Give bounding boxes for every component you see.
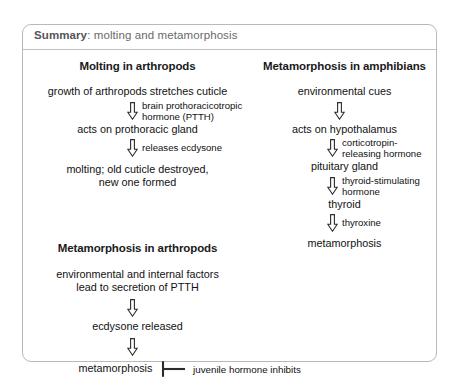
panel-body: Molting in arthropods growth of arthropo… [23, 50, 436, 361]
arrow-row-thyroxine: thyroxine [252, 212, 437, 234]
node-ecdysone-released: ecdysone released [23, 320, 252, 333]
arrow-row-ma-1 [23, 297, 252, 319]
arrow-label-tsh-line1: thyroid-stimulating [342, 175, 420, 186]
arrow-row-amph-1 [252, 100, 437, 122]
node-acts-on-prothoracic-gland: acts on prothoracic gland [23, 123, 252, 136]
node-environmental-cues: environmental cues [252, 85, 437, 98]
node-molting-line2: new one formed [23, 176, 252, 189]
section-metamorphosis-amphibians: Metamorphosis in amphibians environmenta… [252, 60, 437, 250]
down-arrow-icon [127, 102, 138, 120]
node-metamorphosis-amphibians: metamorphosis [252, 237, 437, 250]
node-env-factors-line1: environmental and internal factors [23, 268, 252, 281]
arrow-label-crh: corticotropin- releasing hormone [342, 137, 421, 159]
down-arrow-icon [327, 139, 338, 157]
arrow-label-ptth-line1: brain prothoracicotropic [142, 100, 242, 111]
panel-header: Summary: molting and metamorphosis [23, 25, 436, 50]
node-metamorphosis-arthropods-row: metamorphosis juvenile hormone inhibits [23, 360, 252, 378]
arrow-row-ptth: brain prothoracicotropic hormone (PTTH) [23, 100, 252, 122]
arrow-label-crh-line1: corticotropin- [342, 137, 397, 148]
arrow-label-ptth-line2: hormone (PTTH) [142, 111, 214, 122]
section-title-molting-arthropods: Molting in arthropods [23, 60, 252, 72]
section-title-metamorphosis-arthropods: Metamorphosis in arthropods [23, 242, 252, 254]
inhibition-bar-icon [161, 360, 187, 378]
arrow-label-ecdysone: releases ecdysone [142, 142, 222, 153]
arrow-label-tsh-line2: hormone [342, 186, 380, 197]
arrow-row-ecdysone: releases ecdysone [23, 137, 252, 159]
arrow-label-ptth: brain prothoracicotropic hormone (PTTH) [142, 100, 242, 122]
summary-panel: Summary: molting and metamorphosis Molti… [22, 24, 437, 362]
node-pituitary-gland: pituitary gland [252, 160, 437, 173]
node-thyroid: thyroid [252, 198, 437, 211]
section-molting-arthropods: Molting in arthropods growth of arthropo… [23, 60, 252, 188]
arrow-label-crh-line2: releasing hormone [342, 148, 421, 159]
node-molting-old-cuticle: molting; old cuticle destroyed, new one … [23, 163, 252, 188]
down-arrow-icon [327, 177, 338, 195]
arrow-row-tsh: thyroid-stimulating hormone [252, 175, 437, 197]
down-arrow-icon [127, 139, 138, 157]
down-arrow-icon [327, 214, 338, 232]
panel-title-strong: Summary [34, 29, 87, 41]
down-arrow-icon [127, 338, 138, 356]
inhibitor-label-juvenile-hormone: juvenile hormone inhibits [193, 364, 301, 377]
node-env-factors-line2: lead to secretion of PTTH [23, 281, 252, 294]
panel-title-rest: : molting and metamorphosis [87, 29, 237, 41]
section-metamorphosis-arthropods: Metamorphosis in arthropods environmenta… [23, 242, 252, 378]
node-growth-stretches-cuticle: growth of arthropods stretches cuticle [23, 85, 252, 98]
node-molting-line1: molting; old cuticle destroyed, [23, 163, 252, 176]
node-environmental-internal-factors: environmental and internal factors lead … [23, 268, 252, 293]
arrow-label-thyroxine: thyroxine [342, 217, 381, 228]
down-arrow-icon [127, 299, 138, 317]
down-arrow-icon [334, 102, 345, 120]
arrow-row-ma-2 [23, 336, 252, 358]
arrow-label-tsh: thyroid-stimulating hormone [342, 175, 420, 197]
section-title-metamorphosis-amphibians: Metamorphosis in amphibians [252, 60, 437, 72]
arrow-row-crh: corticotropin- releasing hormone [252, 137, 437, 159]
node-acts-on-hypothalamus: acts on hypothalamus [252, 123, 437, 136]
